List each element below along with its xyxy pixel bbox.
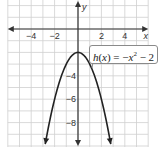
function-label-callout: h(x) = −x2 − 2 (89, 45, 158, 64)
x-tick-label: −2 (49, 31, 59, 41)
x-tick-label: 2 (99, 31, 104, 41)
x-tick-label: 4 (122, 31, 127, 41)
x-tick-label: −4 (26, 31, 36, 41)
y-tick-label: −8 (66, 118, 76, 128)
axes (8, 1, 148, 146)
y-tick-label: −4 (66, 71, 76, 81)
coordinate-plane: −4−224−4−6−8xy (0, 0, 160, 147)
y-tick-label: −6 (66, 94, 76, 104)
equals-neg: ) = − (107, 51, 129, 63)
constant-term: − 2 (137, 51, 154, 63)
x-axis-label: x (143, 31, 149, 41)
y-axis-label: y (81, 2, 87, 12)
